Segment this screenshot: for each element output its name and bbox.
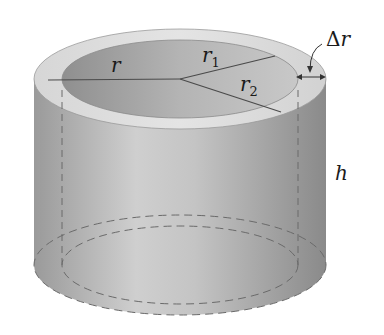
label-h: h	[335, 161, 348, 185]
cylindrical-shell-diagram: r r1 r2 Δr h	[0, 0, 384, 335]
label-r: r	[111, 53, 122, 77]
label-delta-r: Δr	[326, 27, 351, 51]
